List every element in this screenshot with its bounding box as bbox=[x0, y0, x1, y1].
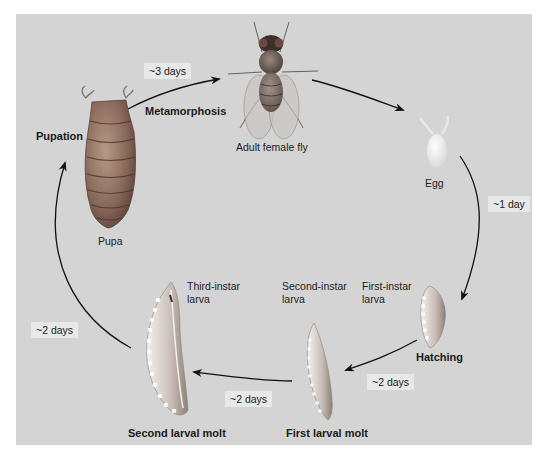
stage-label-first-instar: First-instar larva bbox=[362, 280, 412, 305]
stage-label-egg: Egg bbox=[425, 177, 444, 190]
pupa-illustration bbox=[82, 86, 135, 228]
duration-label-first-to-second: ~2 days bbox=[367, 374, 414, 390]
event-label-first-larval-molt: First larval molt bbox=[286, 427, 368, 440]
event-label-second-larval-molt: Second larval molt bbox=[128, 427, 226, 440]
life-cycle-artwork bbox=[0, 0, 542, 456]
first-instar-larva-illustration bbox=[421, 286, 446, 348]
duration-label-third-to-pupa: ~2 days bbox=[31, 322, 78, 338]
event-label-hatching: Hatching bbox=[416, 351, 463, 364]
stage-label-second-instar: Second-instar larva bbox=[282, 280, 347, 305]
stage-label-third-instar: Third-instar larva bbox=[187, 280, 240, 305]
duration-label-pupa-to-adult: ~3 days bbox=[144, 63, 191, 79]
event-label-pupation: Pupation bbox=[36, 130, 83, 143]
duration-label-egg-to-first: ~1 day bbox=[488, 196, 530, 212]
duration-label-second-to-third: ~2 days bbox=[225, 391, 272, 407]
egg-illustration bbox=[420, 116, 448, 168]
stage-label-adult: Adult female fly bbox=[236, 141, 308, 154]
third-instar-larva-illustration bbox=[147, 282, 188, 415]
adult-fly-illustration bbox=[228, 22, 318, 139]
arrow-adult-to-egg bbox=[312, 80, 403, 110]
arrow-first-to-second bbox=[346, 340, 417, 370]
second-instar-larva-illustration bbox=[307, 323, 332, 420]
arrow-second-to-third bbox=[194, 372, 292, 381]
arrow-egg-to-first bbox=[460, 156, 479, 299]
event-label-metamorphosis: Metamorphosis bbox=[145, 105, 226, 118]
stage-label-pupa: Pupa bbox=[98, 235, 123, 248]
